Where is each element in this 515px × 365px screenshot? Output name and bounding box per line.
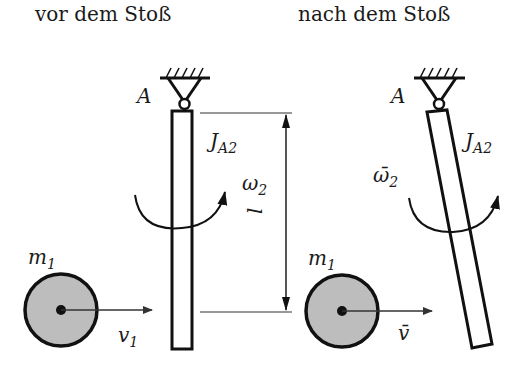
label-mass-before: m1 [28,245,56,272]
ball-m1-after [306,275,432,347]
rod-before [172,111,192,349]
label-velocity-before: v1 [118,323,138,350]
pivot-support-after [414,68,465,109]
label-pivot-before: A [135,84,151,108]
impact-diagram: A JA2 ω2 l m1 v1 A JA2 ω̄2 m1 v̄ [0,0,515,365]
label-inertia-after: JA2 [461,129,492,156]
label-pivot-after: A [389,84,405,108]
label-mass-after: m1 [308,246,336,273]
label-velocity-after: v̄ [398,321,410,345]
pivot-support-before [160,68,210,109]
label-omega-before: ω2 [242,171,267,198]
label-length: l [243,208,267,214]
label-omega-after: ω̄2 [373,163,398,190]
label-inertia-before: JA2 [206,129,237,156]
